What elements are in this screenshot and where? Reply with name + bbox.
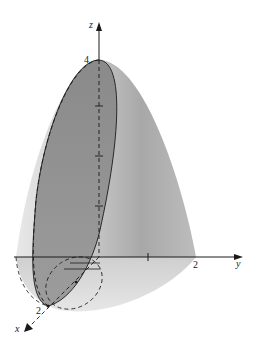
x-axis-label: x	[14, 323, 20, 334]
y-tick-label-2: 2	[193, 259, 198, 270]
paraboloid-diagram: z 4 y 2 2 x	[0, 0, 257, 345]
x-tick-label-2: 2	[36, 305, 41, 316]
z-axis-arrow-icon	[96, 22, 102, 31]
z-axis-label: z	[88, 19, 93, 30]
x-axis-arrow-icon	[24, 323, 33, 332]
y-axis-label: y	[235, 258, 241, 269]
intersection-point	[75, 281, 78, 284]
z-tick-label-4: 4	[84, 54, 89, 65]
